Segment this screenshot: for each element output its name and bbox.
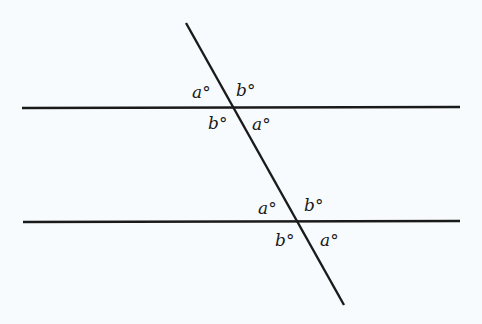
transversal-line xyxy=(186,23,344,305)
angle-label-top-upper-right: b° xyxy=(236,80,255,100)
angle-label-top-upper-left: a° xyxy=(192,82,211,102)
bottom-parallel-line xyxy=(23,221,460,222)
top-parallel-line xyxy=(22,107,460,108)
angle-label-bottom-lower-right: a° xyxy=(320,230,339,250)
angle-label-bottom-lower-left: b° xyxy=(275,230,294,250)
angle-label-bottom-upper-right: b° xyxy=(304,195,323,215)
angle-label-bottom-upper-left: a° xyxy=(258,198,277,218)
angle-label-top-lower-left: b° xyxy=(208,113,227,133)
parallel-lines-transversal-diagram: a° b° b° a° a° b° b° a° xyxy=(0,0,482,324)
angle-label-top-lower-right: a° xyxy=(252,114,271,134)
